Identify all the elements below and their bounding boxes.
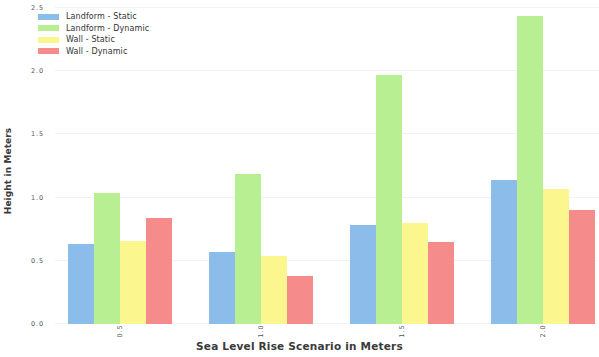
bar[interactable] [376, 75, 402, 324]
y-tick-label: 1.5 [31, 130, 44, 138]
bar[interactable] [209, 252, 235, 324]
bar[interactable] [428, 242, 454, 324]
x-tick-label: 0.5 [116, 322, 124, 340]
x-tick-label: 1.0 [257, 322, 265, 340]
bar-group [350, 8, 454, 324]
legend-item: Landform - Dynamic [38, 24, 149, 33]
legend-label: Landform - Static [66, 12, 137, 21]
legend-label: Wall - Static [66, 35, 115, 44]
bar[interactable] [350, 225, 376, 324]
bar[interactable] [287, 276, 313, 324]
legend-item: Wall - Static [38, 35, 149, 44]
bar[interactable] [120, 241, 146, 324]
y-tick-label: 2.0 [31, 67, 44, 75]
legend-item: Landform - Static [38, 12, 149, 21]
bar[interactable] [146, 218, 172, 324]
x-tick-label: 2.0 [539, 322, 547, 340]
legend-swatch-icon [38, 25, 59, 31]
y-tick-label: 0.0 [31, 320, 44, 328]
bar[interactable] [491, 180, 517, 324]
bar[interactable] [402, 223, 428, 324]
bar[interactable] [569, 210, 595, 324]
legend-swatch-icon [38, 14, 59, 20]
legend-label: Landform - Dynamic [66, 24, 149, 33]
bar[interactable] [94, 193, 120, 324]
bar[interactable] [261, 256, 287, 324]
bar-group [209, 8, 313, 324]
bar[interactable] [68, 244, 94, 324]
bar[interactable] [517, 16, 543, 324]
legend-label: Wall - Dynamic [66, 47, 127, 56]
x-axis-title: Sea Level Rise Scenario in Meters [0, 340, 599, 352]
x-tick-label: 1.5 [398, 322, 406, 340]
bar-chart-figure: Height in Meters 0.00.51.01.52.02.5 0.51… [0, 0, 599, 357]
bar[interactable] [543, 189, 569, 324]
y-tick-label: 1.0 [31, 194, 44, 202]
bar[interactable] [235, 174, 261, 324]
legend-swatch-icon [38, 37, 59, 43]
y-tick-label: 0.5 [31, 257, 44, 265]
legend-swatch-icon [38, 48, 59, 54]
y-tick-label: 2.5 [31, 4, 44, 12]
bar-group [491, 8, 595, 324]
chart-legend: Landform - StaticLandform - DynamicWall … [38, 12, 149, 56]
legend-item: Wall - Dynamic [38, 47, 149, 56]
